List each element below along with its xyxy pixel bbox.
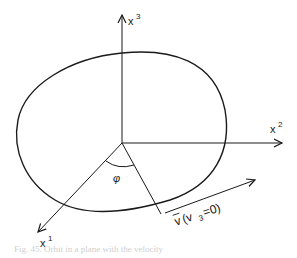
svg-text:x: x	[270, 123, 276, 135]
angle-phi-label: φ	[113, 172, 120, 184]
svg-text:2: 2	[278, 120, 283, 129]
x2-label: x 2	[270, 120, 283, 135]
orbit-diagram: x 3 x 2 x 1 φ v (v 3 =0)	[0, 0, 297, 258]
svg-text:(v: (v	[180, 210, 194, 226]
figure-caption: Fig. 45. Orbit in a plane with the veloc…	[14, 244, 294, 254]
svg-text:=0): =0)	[201, 201, 222, 220]
svg-text:3: 3	[136, 12, 141, 21]
angle-arc	[106, 161, 134, 167]
svg-text:1: 1	[48, 234, 53, 243]
svg-text:x: x	[128, 15, 134, 27]
velocity-label: v (v 3 =0)	[173, 201, 223, 231]
radius-line	[122, 143, 161, 214]
x1-axis	[38, 143, 122, 232]
x3-label: x 3	[128, 12, 141, 27]
